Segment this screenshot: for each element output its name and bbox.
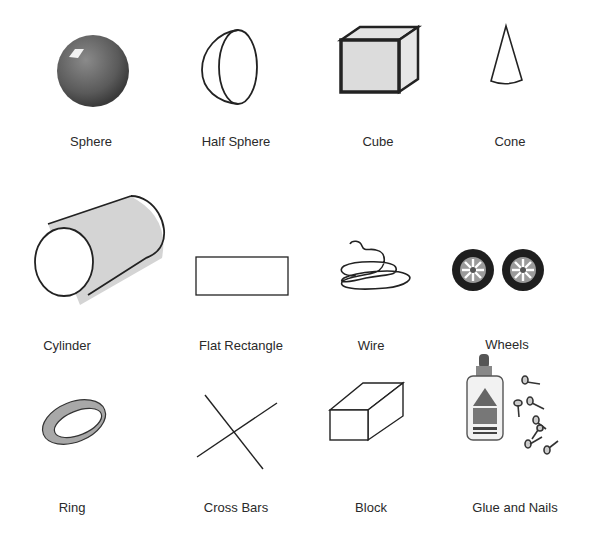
label-wheels: Wheels [485,337,528,352]
label-cylinder: Cylinder [43,338,91,353]
flat-rectangle-icon [195,256,291,298]
label-cube: Cube [362,134,393,149]
ring-icon [38,398,112,450]
half-sphere-icon [198,28,263,108]
label-cross-bars: Cross Bars [204,500,268,515]
cross-bars-icon [195,393,279,473]
glue-bottle-icon [464,352,506,442]
label-wire: Wire [358,338,385,353]
label-half-sphere: Half Sphere [202,134,271,149]
block-icon [328,377,406,443]
wheels-icon [452,248,552,294]
label-sphere: Sphere [70,134,112,149]
label-block: Block [355,500,387,515]
label-cone: Cone [494,134,525,149]
cylinder-icon [30,196,170,311]
sphere-icon [55,35,135,110]
label-ring: Ring [59,500,86,515]
label-glue-and-nails: Glue and Nails [472,500,557,515]
label-flat-rectangle: Flat Rectangle [199,338,283,353]
wire-icon [336,238,416,296]
nails-icon [510,375,562,459]
cone-icon [488,24,528,88]
cube-icon [338,24,423,96]
